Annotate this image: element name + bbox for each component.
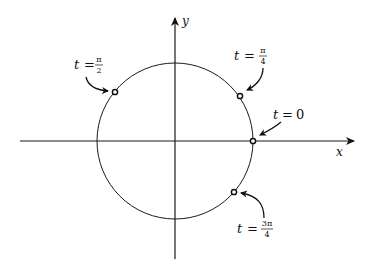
svg-text:t: t — [234, 48, 240, 63]
svg-text:π: π — [260, 46, 265, 55]
label-t-3pi-over-4: t = 3π 4 — [237, 219, 273, 239]
arrow-t-3pi-over-4 — [241, 193, 264, 218]
point-t0 — [250, 138, 255, 143]
svg-text:4: 4 — [264, 230, 269, 239]
svg-text:4: 4 — [260, 57, 265, 66]
svg-text:t: t — [237, 221, 243, 236]
point-t-3pi-over-4 — [231, 189, 236, 194]
svg-text:=: = — [84, 57, 95, 72]
x-axis-label: x — [336, 145, 343, 159]
svg-text:=: = — [282, 107, 293, 122]
label-t-pi-over-2: t = π 2 — [74, 55, 103, 75]
arrow-t-pi-over-4 — [247, 68, 263, 90]
svg-text:3π: 3π — [262, 219, 272, 228]
y-axis-label: y — [181, 14, 189, 28]
svg-text:=: = — [247, 221, 258, 236]
arrow-t0 — [260, 122, 281, 135]
point-t-pi-over-2 — [112, 89, 117, 94]
point-t-pi-over-4 — [237, 93, 242, 98]
svg-text:2: 2 — [96, 66, 101, 75]
arrow-t-pi-over-2 — [86, 77, 108, 91]
label-t0: t = 0 — [273, 107, 304, 122]
parametric-circle-diagram: x y t = π 2 t = π 4 t = 0 t — [0, 0, 379, 268]
svg-text:π: π — [96, 55, 101, 64]
svg-text:=: = — [244, 48, 255, 63]
label-t-pi-over-4: t = π 4 — [234, 46, 267, 66]
svg-text:t: t — [74, 57, 80, 72]
svg-text:0: 0 — [296, 107, 304, 122]
svg-text:t: t — [273, 107, 279, 122]
